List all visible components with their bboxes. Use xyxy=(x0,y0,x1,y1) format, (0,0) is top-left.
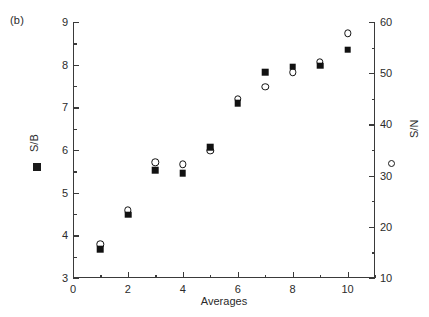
data-point-s-b xyxy=(344,46,351,53)
y-axis-left-tick xyxy=(73,65,79,66)
x-axis-tick xyxy=(128,272,129,278)
x-axis-minor-tick xyxy=(375,275,376,279)
x-axis-ticklabel: 0 xyxy=(70,283,76,295)
data-point-s-n xyxy=(207,147,214,154)
y-axis-left-ticklabel: 7 xyxy=(62,101,68,113)
y-axis-left-ticklabel: 5 xyxy=(62,187,68,199)
y-axis-left-minor-tick xyxy=(73,214,77,215)
y-axis-left-tick xyxy=(73,150,79,151)
y-axis-left-tick xyxy=(73,235,79,236)
data-point-s-b xyxy=(180,170,187,177)
data-point-s-n xyxy=(261,83,268,90)
x-axis-tick xyxy=(238,272,239,278)
y-axis-left-minor-tick xyxy=(73,86,77,87)
x-axis-ticklabel: 10 xyxy=(341,283,353,295)
x-axis-minor-tick xyxy=(320,275,321,279)
y-axis-right-ticklabel: 10 xyxy=(380,272,392,284)
y-axis-left-tick xyxy=(73,278,79,279)
y-axis-right-title: S/N xyxy=(408,120,420,138)
y-axis-right-ticklabel: 50 xyxy=(380,67,392,79)
y-axis-right-minor-tick xyxy=(372,252,376,253)
x-axis-minor-tick xyxy=(100,275,101,279)
y-axis-right-minor-tick xyxy=(372,201,376,202)
x-axis-tick xyxy=(183,272,184,278)
y-axis-left-ticklabel: 6 xyxy=(62,144,68,156)
y-axis-right-tick xyxy=(369,22,375,23)
y-axis-left-ticklabel: 4 xyxy=(62,229,68,241)
legend-marker-sb-filled-square-icon xyxy=(33,163,41,171)
data-point-s-n xyxy=(179,161,186,168)
y-axis-left-tick xyxy=(73,107,79,108)
y-axis-left-minor-tick xyxy=(73,171,77,172)
y-axis-right-minor-tick xyxy=(372,99,376,100)
y-axis-right-tick xyxy=(369,73,375,74)
y-axis-left-ticklabel: 8 xyxy=(62,59,68,71)
y-axis-left-ticklabel: 3 xyxy=(62,272,68,284)
x-axis-ticklabel: 8 xyxy=(290,283,296,295)
y-axis-right-ticklabel: 60 xyxy=(380,16,392,28)
y-axis-right-tick xyxy=(369,278,375,279)
x-axis-ticklabel: 4 xyxy=(180,283,186,295)
y-axis-left-ticklabel: 9 xyxy=(62,16,68,28)
data-point-s-n xyxy=(289,68,296,75)
legend-marker-sn-open-circle-icon xyxy=(388,160,395,167)
y-axis-right-tick xyxy=(369,227,375,228)
x-axis-title: Averages xyxy=(201,295,247,307)
y-axis-left-tick xyxy=(73,22,79,23)
y-axis-right-ticklabel: 20 xyxy=(380,221,392,233)
y-axis-right-minor-tick xyxy=(372,48,376,49)
x-axis-line xyxy=(73,277,375,278)
y-axis-left-tick xyxy=(73,193,79,194)
data-point-s-b xyxy=(262,69,269,76)
data-point-s-n xyxy=(152,159,159,166)
y-axis-right-ticklabel: 30 xyxy=(380,170,392,182)
data-point-s-b xyxy=(152,167,159,174)
y-axis-right-tick xyxy=(369,124,375,125)
plot-area: 34567891020304050600246810 xyxy=(73,22,375,278)
y-axis-left-minor-tick xyxy=(73,257,77,258)
data-point-s-n xyxy=(344,30,351,37)
x-axis-tick xyxy=(348,272,349,278)
y-axis-right-tick xyxy=(369,176,375,177)
x-axis-tick xyxy=(73,272,74,278)
y-axis-right-ticklabel: 40 xyxy=(380,118,392,130)
x-axis-ticklabel: 2 xyxy=(125,283,131,295)
y-axis-left-minor-tick xyxy=(73,43,77,44)
x-axis-ticklabel: 6 xyxy=(235,283,241,295)
y-axis-left-minor-tick xyxy=(73,129,77,130)
panel-label: (b) xyxy=(10,14,24,26)
x-axis-tick xyxy=(293,272,294,278)
x-axis-minor-tick xyxy=(265,275,266,279)
x-axis-minor-tick xyxy=(210,275,211,279)
y-axis-right-minor-tick xyxy=(372,150,376,151)
x-axis-minor-tick xyxy=(155,275,156,279)
figure-panel: (b) S/B S/N Averages 3456789102030405060… xyxy=(0,0,429,317)
y-axis-left-title: S/B xyxy=(28,134,40,152)
